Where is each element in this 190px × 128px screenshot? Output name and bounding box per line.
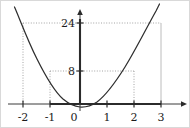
x-axis-arrow-icon [181,101,187,107]
x-axis-label-pos3: 3 [158,111,165,124]
tick-marks-group [23,23,161,108]
y-axis-label-24: 24 [61,17,75,30]
parabola-figure: -2 -1 0 1 2 3 8 24 [0,0,190,128]
parabola-curve [15,4,160,107]
axes-group [8,9,187,111]
figure-canvas: -2 -1 0 1 2 3 8 24 [1,1,190,128]
y-axis-arrow-icon [77,9,83,15]
x-axis-label-neg2: -2 [18,111,29,124]
x-axis-label-zero: 0 [71,111,78,124]
tick-labels-group: -2 -1 0 1 2 3 8 24 [18,17,165,124]
x-axis-label-pos1: 1 [104,111,111,124]
guide-lines-group [23,23,161,104]
y-axis-label-8: 8 [68,65,75,78]
x-axis-label-pos2: 2 [131,111,138,124]
x-axis-label-neg1: -1 [45,111,56,124]
